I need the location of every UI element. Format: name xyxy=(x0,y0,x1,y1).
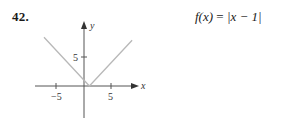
axes xyxy=(35,21,139,118)
x-tick-label-minus-5: −5 xyxy=(51,91,62,102)
x-tick-label-5: 5 xyxy=(108,91,113,102)
y-axis-arrow-icon xyxy=(81,21,87,29)
x-axis-arrow-icon xyxy=(131,83,139,89)
function-curve xyxy=(44,37,132,86)
function-graph: −5 5 5 x y xyxy=(0,0,300,122)
x-axis-label: x xyxy=(140,80,146,91)
y-axis-label: y xyxy=(89,20,95,31)
y-tick-label-5: 5 xyxy=(73,52,78,63)
